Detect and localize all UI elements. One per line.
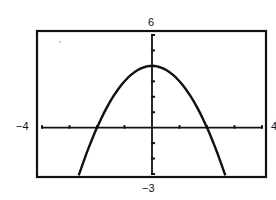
xmax-label: 4 (271, 121, 276, 132)
ymin-label: −3 (142, 183, 155, 194)
ymax-label: 6 (148, 17, 154, 28)
scan-speck (59, 41, 61, 43)
xmin-label: −4 (16, 121, 29, 132)
plot-area (0, 0, 276, 200)
